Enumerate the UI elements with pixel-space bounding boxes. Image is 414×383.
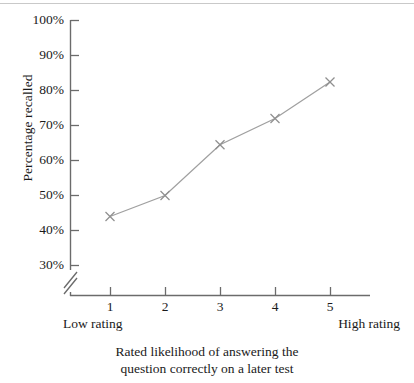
y-tick-label-70: 70%: [16, 117, 64, 133]
figure-caption-line-1: Rated likelihood of answering the: [0, 343, 414, 360]
y-tick-label-40: 40%: [16, 222, 64, 238]
data-line-series-1: [110, 82, 330, 217]
x-tick-label-3: 3: [208, 299, 232, 315]
data-point-2: [161, 191, 170, 200]
data-point-4: [271, 114, 280, 123]
y-tick-label-100: 100%: [16, 12, 64, 28]
y-tick-label-50: 50%: [16, 187, 64, 203]
x-axis-low-rating-label: Low rating: [63, 316, 123, 332]
y-tick-label-90: 90%: [16, 47, 64, 63]
y-tick-label-60: 60%: [16, 152, 64, 168]
x-tick-label-2: 2: [153, 299, 177, 315]
y-axis-ticks: [71, 21, 80, 266]
data-point-3: [216, 140, 225, 149]
axis-break-icon: [64, 272, 77, 294]
x-axis-ticks: [111, 287, 331, 296]
data-point-1: [106, 212, 115, 221]
x-tick-label-5: 5: [318, 299, 342, 315]
y-tick-label-30: 30%: [16, 257, 64, 273]
x-tick-label-1: 1: [98, 299, 122, 315]
data-markers: [106, 78, 335, 222]
figure-caption-line-2: question correctly on a later test: [0, 360, 414, 377]
x-axis-high-rating-label: High rating: [338, 316, 400, 332]
x-tick-label-4: 4: [263, 299, 287, 315]
figure-container: Percentage recalled 100% 90% 80% 70% 60%…: [0, 0, 414, 383]
y-tick-label-80: 80%: [16, 82, 64, 98]
data-point-5: [326, 78, 335, 87]
figure-caption: Rated likelihood of answering the questi…: [0, 343, 414, 377]
